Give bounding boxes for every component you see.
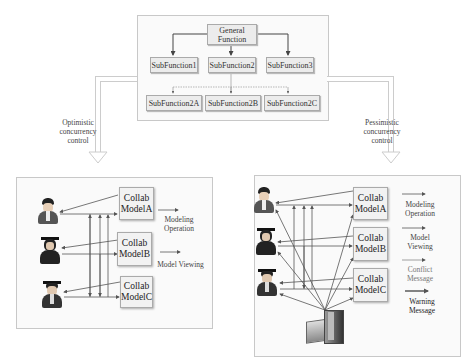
panel-arrows (0, 0, 469, 359)
legend-line2: Operation (158, 224, 200, 233)
graduate-user-icon (41, 280, 63, 308)
model-a-line1: Collab (124, 193, 149, 204)
collab-model-c: Collab ModelC (353, 268, 388, 302)
model-a-line2: ModelA (121, 204, 153, 215)
legend-line1: Modeling (400, 200, 440, 209)
collab-model-a: Collab ModelA (119, 187, 154, 220)
model-b-line2: ModelB (119, 249, 150, 260)
model-b-line1: Collab (358, 233, 383, 244)
legend-model-viewing: Model Viewing (400, 233, 440, 251)
model-a-line1: Collab (358, 193, 383, 204)
collab-model-b: Collab ModelB (353, 227, 388, 261)
legend-line2: Message (400, 274, 440, 283)
server-icon (306, 308, 346, 344)
model-b-line1: Collab (122, 238, 147, 249)
legend-line1: Conflict (400, 265, 440, 274)
graduate-user-icon (256, 268, 278, 296)
legend-line1: Warning (402, 297, 442, 306)
legend-conflict-message: Conflict Message (400, 265, 440, 283)
graduate-user-icon (255, 227, 277, 255)
legend-line1: Model (400, 233, 440, 242)
model-c-line2: ModelC (355, 285, 386, 296)
model-a-line2: ModelA (355, 204, 387, 215)
legend-warning-message: Warning Message (402, 297, 442, 315)
legend-line2: Message (402, 306, 442, 315)
legend-line1: Model Viewing (153, 260, 208, 269)
model-b-line2: ModelB (355, 244, 386, 255)
legend-modeling-operation: Modeling Operation (158, 215, 200, 233)
model-c-line2: ModelC (121, 292, 152, 303)
collab-model-a: Collab ModelA (353, 187, 388, 220)
collab-model-c: Collab ModelC (120, 276, 153, 308)
legend-line2: Viewing (400, 242, 440, 251)
user-icon (253, 187, 275, 213)
user-icon (37, 198, 59, 224)
legend-line1: Modeling (158, 215, 200, 224)
legend-model-viewing: Model Viewing (153, 260, 208, 269)
graduate-user-icon (39, 236, 61, 264)
model-c-line1: Collab (358, 274, 383, 285)
collab-model-b: Collab ModelB (117, 232, 152, 266)
legend-line2: Operation (400, 209, 440, 218)
legend-modeling-operation: Modeling Operation (400, 200, 440, 218)
model-c-line1: Collab (124, 281, 149, 292)
